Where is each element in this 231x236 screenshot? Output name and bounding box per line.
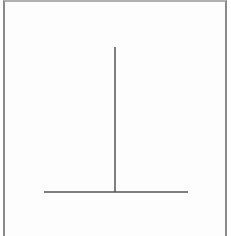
inverted-t-diagram: [0, 0, 231, 236]
